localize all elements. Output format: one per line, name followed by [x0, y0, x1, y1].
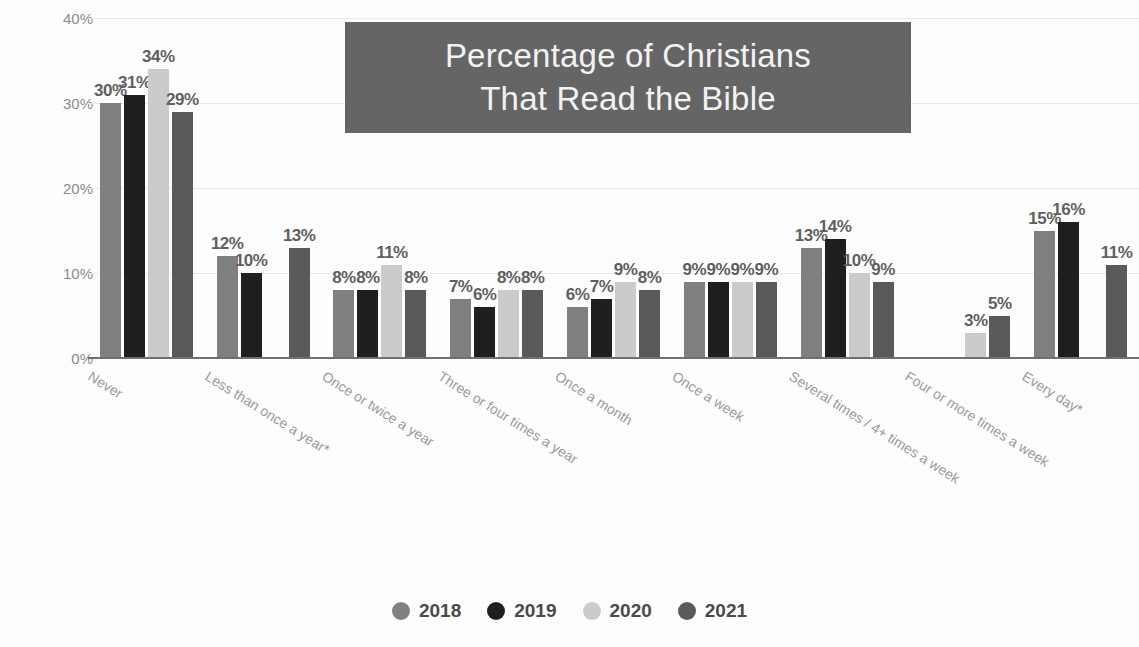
y-axis-tick: 10%: [23, 265, 93, 282]
legend-swatch-icon: [583, 602, 601, 620]
y-axis-tick: 40%: [23, 10, 93, 27]
legend-item[interactable]: 2019: [487, 600, 556, 622]
bar: 8%: [522, 290, 543, 358]
bar: 13%: [289, 248, 310, 359]
bar-value-label: 29%: [166, 90, 199, 110]
bar: 29%: [172, 112, 193, 359]
x-axis-category-label: Every day*: [1020, 368, 1086, 417]
bar: 9%: [708, 282, 729, 359]
bar-value-label: 8%: [521, 268, 545, 288]
bar-group: 12%10%13%: [205, 18, 322, 358]
bar-value-label: 7%: [590, 277, 614, 297]
bar-value-label: 11%: [376, 243, 408, 263]
legend-label: 2020: [610, 600, 652, 622]
bar-value-label: 7%: [449, 277, 473, 297]
legend-label: 2021: [705, 600, 747, 622]
bar: 7%: [591, 299, 612, 359]
bar: 6%: [474, 307, 495, 358]
y-axis-tick: 0%: [23, 350, 93, 367]
bar: 10%: [241, 273, 262, 358]
y-axis-tick: 30%: [23, 95, 93, 112]
bar: 12%: [217, 256, 238, 358]
bar: 8%: [357, 290, 378, 358]
x-axis-category-label: Less than once a year*: [202, 368, 332, 457]
x-axis-category-label: Once a week: [669, 368, 747, 425]
bar: 9%: [873, 282, 894, 359]
legend-swatch-icon: [392, 602, 410, 620]
bar: 9%: [732, 282, 753, 359]
x-axis-line: [88, 357, 1139, 359]
bar-value-label: 11%: [1101, 243, 1133, 263]
bar: 10%: [849, 273, 870, 358]
bar: 15%: [1034, 231, 1055, 359]
bar-value-label: 9%: [682, 260, 706, 280]
bar-value-label: 16%: [1052, 200, 1085, 220]
bar-value-label: 9%: [614, 260, 638, 280]
bar: 13%: [801, 248, 822, 359]
bar-value-label: 8%: [497, 268, 521, 288]
bar-value-label: 8%: [356, 268, 380, 288]
legend-swatch-icon: [678, 602, 696, 620]
bar-group: 3%5%: [905, 18, 1022, 358]
bar-value-label: 9%: [871, 260, 895, 280]
legend-item[interactable]: 2018: [392, 600, 461, 622]
legend-item[interactable]: 2021: [678, 600, 747, 622]
bar-value-label: 6%: [473, 285, 497, 305]
bar: 8%: [333, 290, 354, 358]
bar-value-label: 5%: [988, 294, 1012, 314]
chart-title-line-1: Percentage of Christians: [445, 35, 811, 77]
x-axis-category-label: Once or twice a year: [319, 368, 436, 450]
bar: 3%: [965, 333, 986, 359]
bar: 11%: [381, 265, 402, 359]
legend-item[interactable]: 2020: [583, 600, 652, 622]
chart-legend: 2018201920202021: [0, 600, 1139, 622]
bar-group: 30%31%34%29%: [88, 18, 205, 358]
bar: 8%: [498, 290, 519, 358]
bar: 16%: [1058, 222, 1079, 358]
chart-title-box: Percentage of Christians That Read the B…: [345, 22, 911, 133]
bar-value-label: 6%: [566, 285, 590, 305]
bar: 30%: [100, 103, 121, 358]
bar-group: 15%16%11%: [1022, 18, 1139, 358]
bar: 8%: [405, 290, 426, 358]
x-axis-category-label: Never: [86, 368, 126, 401]
bar: 34%: [148, 69, 169, 358]
bar-value-label: 8%: [332, 268, 356, 288]
bar: 11%: [1106, 265, 1127, 359]
legend-swatch-icon: [487, 602, 505, 620]
bar-value-label: 14%: [819, 217, 852, 237]
y-axis-tick: 20%: [23, 180, 93, 197]
chart-title-line-2: That Read the Bible: [480, 78, 775, 120]
bar-value-label: 9%: [706, 260, 730, 280]
bar: 7%: [450, 299, 471, 359]
bar: 9%: [756, 282, 777, 359]
bar-value-label: 34%: [142, 47, 175, 67]
bar-value-label: 8%: [404, 268, 428, 288]
chart-page: Share of resondents 0%10%20%30%40% 30%31…: [0, 0, 1139, 647]
legend-label: 2019: [514, 600, 556, 622]
bar-value-label: 8%: [638, 268, 662, 288]
bar-value-label: 31%: [118, 73, 151, 93]
bar-value-label: 10%: [235, 251, 268, 271]
bar: 31%: [124, 95, 145, 359]
bar: 9%: [684, 282, 705, 359]
bar-value-label: 13%: [283, 226, 316, 246]
bar: 9%: [615, 282, 636, 359]
bar: 8%: [639, 290, 660, 358]
bar-value-label: 3%: [964, 311, 988, 331]
bar-value-label: 9%: [754, 260, 778, 280]
bar: 5%: [989, 316, 1010, 359]
bar: 6%: [567, 307, 588, 358]
bar-value-label: 9%: [730, 260, 754, 280]
legend-label: 2018: [419, 600, 461, 622]
x-axis-category-label: Once a month: [553, 368, 636, 428]
